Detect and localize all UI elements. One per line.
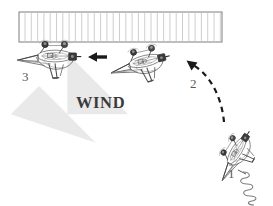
uav-stage-1-launch xyxy=(208,124,266,189)
stage-label-2: 2 xyxy=(190,77,197,90)
approach-arrow-solid xyxy=(88,52,107,62)
trajectory-arrow-dashed xyxy=(187,61,225,123)
stage-label-3: 3 xyxy=(22,70,29,83)
wind-label: WIND xyxy=(76,95,125,112)
stage-label-1: 1 xyxy=(228,167,235,180)
uav-net-recovery-figure: WIND 3 2 1 xyxy=(0,0,273,206)
spring-catapult xyxy=(238,170,256,205)
uav-stage-2-climb xyxy=(107,41,175,90)
recovery-net xyxy=(19,12,222,42)
